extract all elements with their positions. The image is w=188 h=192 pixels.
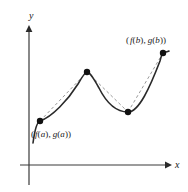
plotted-point-a — [37, 118, 43, 124]
plotted-point-valley — [125, 109, 131, 115]
chord-group — [40, 53, 163, 121]
point-b-annotation: ( f(b), g(b)) — [126, 36, 166, 45]
y-axis-label: y — [29, 11, 33, 21]
figure-graphic — [0, 0, 188, 192]
y-axis-arrow-icon — [26, 25, 33, 32]
plotted-point-b — [160, 50, 166, 56]
figure-canvas: y x ( f(a), g(a)) ( f(b), g(b)) — [0, 0, 188, 192]
point-a-annotation-text: ( f(a), g(a)) — [31, 129, 71, 139]
plotted-point-peak — [84, 69, 90, 75]
plotted-points-group — [37, 50, 166, 124]
point-b-annotation-text: ( f(b), g(b)) — [126, 35, 166, 45]
x-axis-label: x — [175, 160, 179, 170]
chord-segment — [128, 53, 163, 112]
x-axis-arrow-icon — [165, 162, 172, 169]
point-a-annotation: ( f(a), g(a)) — [31, 130, 71, 139]
